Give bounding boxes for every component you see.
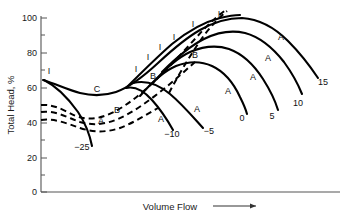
- curve-label-10: 10: [293, 98, 303, 108]
- zone-label-I-7: I: [218, 9, 221, 19]
- chart-canvas: 100 80 60 40 20 0 Total Head, % Volume F…: [0, 0, 343, 218]
- curve-label-0: 0: [239, 113, 244, 123]
- y-tick-label-60: 60: [27, 83, 37, 93]
- x-axis: Volume Flow: [41, 192, 340, 212]
- curve-end-labels: −25 −10 −5 0 5 10 15: [74, 77, 328, 152]
- zone-label-I-4: I: [159, 42, 162, 52]
- curve-15-zone-A: A: [278, 32, 284, 42]
- zone-label-C: C: [94, 84, 101, 94]
- zone-label-B-2: B: [150, 71, 156, 81]
- zone-label-I-5: I: [173, 32, 176, 42]
- curve--5-zone-A: A: [194, 104, 200, 114]
- y-tick-label-40: 40: [27, 118, 37, 128]
- zone-label-B-3: B: [192, 50, 198, 60]
- zone-label-I-2: I: [135, 64, 138, 74]
- y-tick-label-100: 100: [22, 13, 37, 23]
- curve-label-5: 5: [269, 111, 274, 121]
- curve--10-zone-A: A: [158, 114, 164, 124]
- curve-label-15: 15: [318, 77, 328, 87]
- performance-map-chart: 100 80 60 40 20 0 Total Head, % Volume F…: [0, 0, 343, 218]
- y-axis-title: Total Head, %: [5, 75, 16, 135]
- zone-label-I-1: I: [48, 66, 51, 76]
- y-axis: 100 80 60 40 20 0 Total Head, %: [5, 13, 47, 197]
- curve-0-zone-A: A: [225, 86, 231, 96]
- y-tick-label-80: 80: [27, 48, 37, 58]
- curve-label--25: −25: [74, 142, 89, 152]
- curve-5: [152, 47, 278, 110]
- curve-10-zone-A: A: [265, 53, 271, 63]
- curve-label--10: −10: [164, 129, 179, 139]
- y-tick-label-20: 20: [27, 153, 37, 163]
- curve--10-tail: [126, 88, 173, 131]
- x-axis-arrow-head: [250, 204, 256, 209]
- y-tick-label-0: 0: [32, 187, 37, 197]
- zone-label-I-3: I: [147, 52, 150, 62]
- x-axis-title: Volume Flow: [143, 201, 198, 212]
- curve-5-zone-A: A: [250, 72, 256, 82]
- zone-label-I-6: I: [192, 19, 195, 29]
- curve-label--5: −5: [204, 126, 214, 136]
- curve--25-zone-A: A: [98, 116, 104, 126]
- zone-label-B-1: B: [114, 105, 120, 115]
